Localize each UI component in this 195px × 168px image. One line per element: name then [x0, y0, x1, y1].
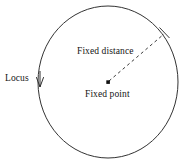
locus-label: Locus [5, 73, 29, 84]
fixed-point-dot [106, 80, 110, 84]
locus-diagram-canvas [0, 0, 195, 168]
locus-diagram: Locus Fixed distance Fixed point [0, 0, 195, 168]
fixed-distance-dashed-line [109, 34, 164, 81]
fixed-point-label: Fixed point [85, 89, 130, 100]
fixed-distance-label: Fixed distance [77, 46, 134, 57]
